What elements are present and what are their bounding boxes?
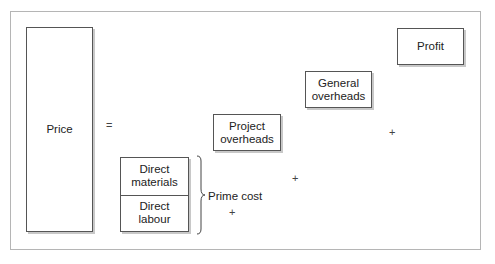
direct-labour-label: Direct labour [139,200,171,226]
price-box: Price [26,27,93,232]
price-label: Price [46,123,72,136]
equals-sign: = [106,120,112,131]
prime-cost-label: Prime cost [208,190,262,203]
prime-cost-stack: Direct materials Direct labour [120,157,189,232]
curly-brace-icon [196,155,206,235]
profit-box: Profit [397,28,464,65]
general-overheads-box: General overheads [305,71,372,108]
direct-materials-cell: Direct materials [121,158,188,195]
project-overheads-label: Project overheads [220,120,274,146]
general-overheads-label: General overheads [312,77,366,103]
profit-label: Profit [417,40,444,53]
direct-materials-label: Direct materials [131,163,178,189]
plus-sign-3: + [389,127,395,138]
plus-sign-2: + [292,173,298,184]
direct-labour-cell: Direct labour [121,195,188,232]
project-overheads-box: Project overheads [213,114,281,151]
plus-sign-1: + [229,207,235,218]
